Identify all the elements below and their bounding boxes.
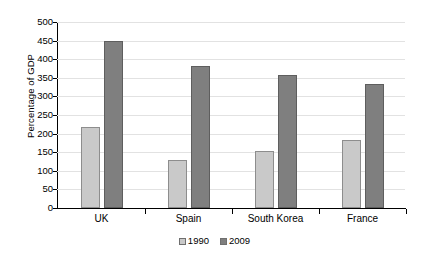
bar-france-2009 <box>365 84 384 208</box>
bar-chart: Percentage of GDP 5004504003503002502001… <box>0 0 429 261</box>
x-axis-label-france: France <box>313 213 413 225</box>
x-axis-tick-mark <box>406 209 407 214</box>
y-axis-tick-mark <box>53 41 57 42</box>
bar-spain-2009 <box>191 66 210 208</box>
legend-label-1990: 1990 <box>188 236 209 246</box>
y-axis-tick-mark <box>53 78 57 79</box>
y-axis-tick-label: 500 <box>23 17 53 27</box>
y-axis-tick-label: 100 <box>23 166 53 176</box>
y-axis-tick-mark <box>53 59 57 60</box>
y-axis-tick-label: 400 <box>23 54 53 64</box>
bars-layer <box>58 22 406 208</box>
y-axis-tick-label: 350 <box>23 73 53 83</box>
legend-swatch-2009-icon <box>220 238 227 245</box>
legend-swatch-1990-icon <box>179 238 186 245</box>
y-axis-tick-mark <box>53 189 57 190</box>
y-axis-tick-mark <box>53 152 57 153</box>
bar-uk-2009 <box>104 41 123 208</box>
legend-item-1990[interactable]: 1990 <box>179 236 209 246</box>
x-axis-label-uk: UK <box>52 213 152 225</box>
legend-label-2009: 2009 <box>229 236 250 246</box>
y-axis-tick-label: 150 <box>23 147 53 157</box>
bar-south-korea-2009 <box>278 75 297 208</box>
y-axis-tick-label: 300 <box>23 91 53 101</box>
legend-item-2009[interactable]: 2009 <box>220 236 250 246</box>
y-axis-tick-mark <box>53 171 57 172</box>
y-axis-tick-mark <box>53 96 57 97</box>
chart-legend: 19902009 <box>0 236 429 246</box>
bar-spain-1990 <box>168 160 187 208</box>
y-axis-ticks: 500450400350300250200150100500 <box>20 22 53 208</box>
y-axis-tick-label: 200 <box>23 129 53 139</box>
bar-france-1990 <box>342 140 361 208</box>
y-axis-tick-mark <box>53 208 57 209</box>
bar-south-korea-1990 <box>255 151 274 208</box>
y-axis-tick-label: 0 <box>23 203 53 213</box>
x-axis-label-spain: Spain <box>139 213 239 225</box>
y-axis-tick-label: 450 <box>23 36 53 46</box>
y-axis-tick-label: 50 <box>23 184 53 194</box>
y-axis-tick-label: 250 <box>23 110 53 120</box>
x-axis-label-south-korea: South Korea <box>226 213 326 225</box>
bar-uk-1990 <box>81 127 100 208</box>
y-axis-tick-mark <box>53 22 57 23</box>
y-axis-tick-mark <box>53 134 57 135</box>
y-axis-tick-mark <box>53 115 57 116</box>
